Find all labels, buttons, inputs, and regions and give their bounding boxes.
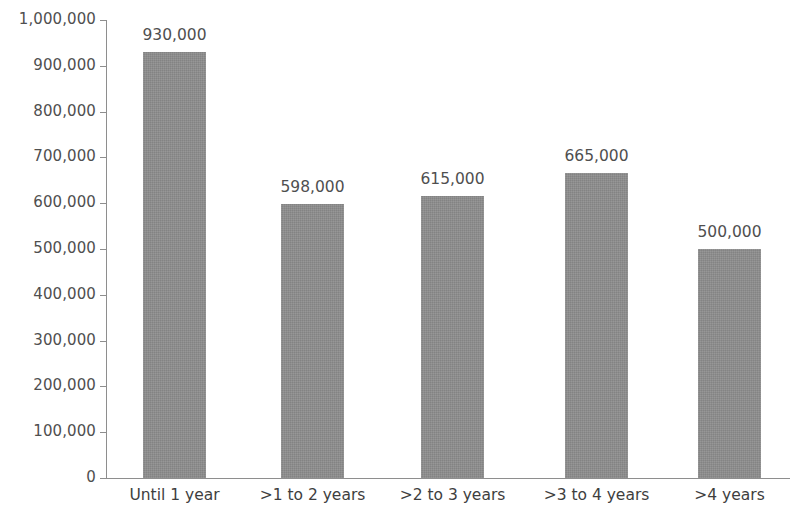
x-axis-category-label: >3 to 4 years	[522, 484, 672, 506]
y-axis-tick-label: 100,000	[0, 424, 96, 439]
plot-area: 0100,000200,000300,000400,000500,000600,…	[0, 0, 800, 514]
y-axis-tick-mark	[100, 66, 107, 67]
y-axis-tick-mark	[100, 112, 107, 113]
y-axis-tick-label-wrap: 600,000	[0, 195, 96, 210]
y-axis-tick-label-wrap: 700,000	[0, 149, 96, 164]
y-axis-tick-label: 800,000	[0, 104, 96, 119]
y-axis-tick-label-wrap: 200,000	[0, 378, 96, 393]
bar	[421, 196, 484, 478]
y-axis-tick-mark	[100, 20, 107, 21]
y-axis-tick-label-wrap: 300,000	[0, 333, 96, 348]
y-axis-tick-mark	[100, 295, 107, 296]
bar	[281, 204, 344, 478]
y-axis-tick-label-wrap: 0	[0, 470, 96, 485]
bar	[143, 52, 206, 478]
y-axis-tick-label-wrap: 100,000	[0, 424, 96, 439]
y-axis-tick-mark	[100, 341, 107, 342]
y-axis-tick-label: 500,000	[0, 241, 96, 256]
bar-value-label: 615,000	[393, 171, 513, 187]
x-axis-category-label: >1 to 2 years	[238, 484, 388, 506]
x-axis-category-label: Until 1 year	[100, 484, 250, 506]
y-axis-tick-label: 600,000	[0, 195, 96, 210]
y-axis-tick-label-wrap: 500,000	[0, 241, 96, 256]
y-axis-tick-label-wrap: 400,000	[0, 287, 96, 302]
y-axis-tick-label: 300,000	[0, 333, 96, 348]
x-axis-category-label: >2 to 3 years	[378, 484, 528, 506]
bar	[698, 249, 761, 478]
bar-value-label: 500,000	[670, 224, 790, 240]
y-axis-tick-label: 1,000,000	[0, 12, 96, 27]
x-axis-line	[106, 478, 790, 479]
y-axis-tick-mark	[100, 203, 107, 204]
y-axis-tick-label: 0	[0, 470, 96, 485]
bar-value-label: 930,000	[115, 27, 235, 43]
y-axis-tick-label: 900,000	[0, 58, 96, 73]
y-axis-tick-label-wrap: 900,000	[0, 58, 96, 73]
y-axis-tick-mark	[100, 478, 107, 479]
bar	[565, 173, 628, 478]
bar-value-label: 598,000	[253, 179, 373, 195]
y-axis-tick-mark	[100, 249, 107, 250]
y-axis-tick-label: 700,000	[0, 149, 96, 164]
y-axis-tick-label: 400,000	[0, 287, 96, 302]
y-axis-tick-mark	[100, 386, 107, 387]
bar-value-label: 665,000	[537, 148, 657, 164]
x-axis-category-label: >4 years	[655, 484, 800, 506]
y-axis-tick-mark	[100, 157, 107, 158]
y-axis-tick-label-wrap: 800,000	[0, 104, 96, 119]
y-axis-tick-label: 200,000	[0, 378, 96, 393]
y-axis-tick-label-wrap: 1,000,000	[0, 12, 96, 27]
y-axis-tick-mark	[100, 432, 107, 433]
bar-chart: 0100,000200,000300,000400,000500,000600,…	[0, 0, 800, 514]
